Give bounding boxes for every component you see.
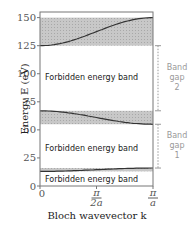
y-tick-label: 125	[17, 40, 36, 51]
forbidden-band-label: Forbidden energy band	[45, 175, 138, 184]
y-tick-label: 25	[23, 152, 36, 163]
band-structure-chart: Forbidden energy bandForbidden energy ba…	[0, 0, 191, 225]
band-gap-label: gap	[169, 141, 184, 150]
band-gap-label: gap	[169, 73, 184, 82]
y-tick-label: 0	[30, 181, 36, 192]
band-gap-label: 1	[174, 151, 179, 160]
x-tick-label: 0	[39, 188, 45, 199]
forbidden-band-label: Forbidden energy band	[45, 73, 138, 82]
band-gap-label: Band	[167, 63, 188, 72]
band-gap-label: 2	[174, 83, 179, 92]
y-axis-label: Energy E (eV)	[19, 63, 30, 134]
x-tick-label-den: 2a	[89, 197, 102, 208]
forbidden-band-label: Forbidden energy band	[45, 144, 138, 153]
x-tick-label-den: a	[150, 197, 156, 208]
y-tick-label: 150	[17, 12, 36, 23]
x-axis-label: Bloch wavevector k	[47, 210, 147, 221]
band-gap-label: Band	[167, 131, 188, 140]
